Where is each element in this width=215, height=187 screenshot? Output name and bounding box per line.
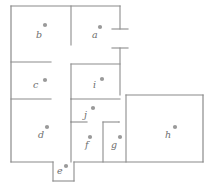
room-f[interactable]: f <box>84 135 92 150</box>
room-label-j: j <box>82 109 87 120</box>
room-g[interactable]: g <box>111 135 122 150</box>
floor-plan-svg: Floor plan with labelled rooms abcdefghi… <box>0 0 215 187</box>
room-b[interactable]: b <box>36 23 47 40</box>
room-label-c: c <box>33 79 39 90</box>
room-d[interactable]: d <box>38 125 49 140</box>
room-marker-dot-j <box>91 106 95 110</box>
room-c[interactable]: c <box>33 78 47 90</box>
room-i[interactable]: i <box>93 77 104 90</box>
room-marker-dot-b <box>43 23 47 27</box>
room-marker-dot-a <box>98 25 102 29</box>
room-marker-dot-g <box>118 135 122 139</box>
room-label-g: g <box>111 139 117 150</box>
room-a[interactable]: a <box>92 25 102 40</box>
room-label-i: i <box>93 79 96 90</box>
room-marker-dot-h <box>173 125 177 129</box>
room-e[interactable]: e <box>57 164 68 176</box>
room-label-d: d <box>38 129 44 140</box>
room-label-e: e <box>57 165 63 176</box>
room-marker-dot-c <box>43 78 47 82</box>
room-label-b: b <box>36 29 42 40</box>
room-label-a: a <box>92 29 98 40</box>
room-marker-dot-e <box>64 164 68 168</box>
floor-plan-diagram: Floor plan with labelled rooms abcdefghi… <box>0 0 215 187</box>
room-label-f: f <box>84 139 90 150</box>
room-h[interactable]: h <box>165 125 177 140</box>
room-marker-dot-d <box>45 125 49 129</box>
room-marker-dot-i <box>100 77 104 81</box>
room-label-h: h <box>165 129 171 140</box>
room-j[interactable]: j <box>82 106 95 120</box>
